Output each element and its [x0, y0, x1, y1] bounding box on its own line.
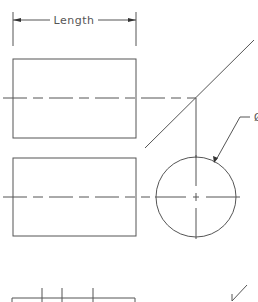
length-dimension: Length	[13, 12, 136, 46]
drawing-canvas: Length Ø	[0, 0, 258, 302]
bottom-leader-line	[232, 285, 247, 301]
arrowhead-right-icon	[128, 18, 136, 22]
arrowhead-left-icon	[13, 18, 21, 22]
bottom-partial-view	[12, 285, 247, 302]
length-label: Length	[54, 14, 95, 27]
leader-line	[216, 117, 240, 160]
miter-line	[145, 40, 254, 148]
diameter-symbol: Ø	[254, 112, 258, 123]
diameter-leader: Ø	[213, 112, 258, 163]
